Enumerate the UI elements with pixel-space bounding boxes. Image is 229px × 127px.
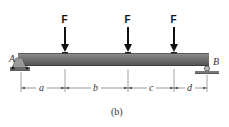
dimension-line <box>21 87 207 89</box>
roller-support-b <box>195 66 219 74</box>
beam <box>18 53 209 66</box>
figure-caption: (b) <box>111 106 123 118</box>
dimension-extension-lines <box>21 69 207 92</box>
force-2 <box>124 27 132 54</box>
beam-diagram: A B F F F <box>0 0 229 127</box>
support-a-label: A <box>8 53 16 64</box>
force-2-label: F <box>125 14 131 25</box>
force-3-label: F <box>171 14 177 25</box>
force-3 <box>170 27 178 54</box>
support-b-label: B <box>213 56 219 67</box>
dimension-a-label: a <box>39 82 44 93</box>
force-1 <box>61 27 69 54</box>
force-1-label: F <box>62 14 68 25</box>
dimension-c-label: c <box>149 82 154 93</box>
dimension-d-label: d <box>187 82 193 93</box>
dimension-b-label: b <box>93 82 98 93</box>
